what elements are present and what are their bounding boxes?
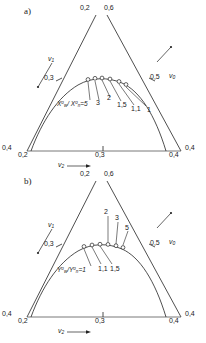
panel-a-marker-label-1: 1 — [147, 106, 151, 113]
panel-b-v1-arrow-head — [37, 252, 39, 254]
panel-b-marker-label-15: 1,5 — [110, 265, 120, 272]
panel-b-bottom-left-outer-label: 0,4 — [2, 310, 12, 317]
panel-b-axis-left-name: v1 — [48, 221, 54, 229]
panel-b-leader-1 — [84, 249, 91, 266]
panel-b-leader-15 — [100, 246, 112, 264]
panel-a-bottom-mid-label: 0,3 — [95, 151, 105, 158]
panel-a-markers — [86, 76, 128, 86]
panel-a-v1-arrow-head — [37, 86, 39, 88]
panel-a-v0-arrow-line — [157, 47, 171, 62]
panel-a-ticks — [56, 78, 155, 151]
panel-b-apex-right-label: 0,6 — [104, 170, 114, 177]
panel-b-left-tick-label: 0,3 — [44, 240, 54, 247]
panel-a-marker-2 — [100, 76, 104, 80]
panel-b-v2-arrow-head — [86, 330, 91, 334]
panel-b-leader-5 — [123, 231, 128, 245]
panel-a-v0-arrow-head — [170, 46, 172, 48]
panel-b-tag: b) — [24, 176, 32, 186]
panel-b-axis-bottom-name: v2 — [58, 327, 64, 335]
panel-a-marker-label-11: 1,1 — [131, 105, 141, 112]
panel-b-leaders — [84, 216, 128, 266]
panel-a-marker-3 — [93, 76, 97, 80]
panel-a-marker-15 — [108, 77, 112, 81]
panel-b-v0-arrow-line — [157, 213, 171, 228]
panel-b-bottom-mid-label: 0,3 — [95, 317, 105, 324]
panel-a-triangle — [27, 15, 181, 151]
panel-a-ratio-label: Xow/ Xon=5 — [57, 100, 88, 108]
panel-a-curve — [31, 79, 166, 151]
panel-a-marker-label-3: 3 — [96, 99, 100, 106]
panel-b-marker-label-5: 5 — [125, 224, 129, 231]
panel-a-bottom-left-outer-label: 0,4 — [2, 144, 12, 151]
panel-b-apex-left-label: 0,2 — [80, 170, 90, 177]
panel-a-marker-5 — [86, 78, 90, 82]
panel-a-left-tick-label: 0,3 — [44, 74, 54, 81]
panel-a-marker-label-2: 2 — [107, 94, 111, 101]
panel-b-triangle — [27, 181, 181, 317]
panel-b-marker-1 — [82, 245, 86, 249]
panel-a-axis-left-name: v1 — [48, 55, 54, 63]
panel-a-left-tick — [56, 78, 62, 81]
panel-b-marker-2 — [106, 243, 110, 247]
panel-a-axis-bottom-name: v2 — [58, 161, 64, 169]
panel-b-marker-3 — [114, 244, 118, 248]
panel-a-marker-1 — [124, 83, 128, 87]
panel-b-ticks — [56, 244, 155, 317]
panel-b-axis-right-name: v0 — [169, 238, 175, 246]
panel-a-leader-5 — [88, 82, 90, 100]
panel-a-leader-1 — [126, 87, 146, 106]
panel-a-bottom-left-inner-label: 0,2 — [18, 151, 28, 158]
panel-a-apex-right-label: 0,6 — [104, 4, 114, 11]
panel-b-left-edge — [27, 181, 96, 317]
panel-b-marker-11 — [90, 243, 94, 247]
panel-a-left-edge — [27, 15, 96, 151]
panel-b-marker-label-3: 3 — [115, 214, 119, 221]
panel-b-right-edge — [107, 181, 181, 317]
panel-b-bottom-right-outer-label: 0,4 — [185, 310, 195, 317]
panel-b-bottom-left-inner-label: 0,2 — [18, 317, 28, 324]
panel-a-marker-11 — [117, 80, 121, 84]
panel-a-marker-label-15: 1,5 — [117, 101, 127, 108]
panel-b-ratio-label: Yow/Yon=1 — [57, 266, 86, 274]
panel-a-bottom-right-outer-label: 0,4 — [185, 144, 195, 151]
panel-b-curve — [31, 245, 166, 317]
panel-b-right-tick-label: 0,5 — [150, 239, 160, 246]
panel-b-leader-3 — [116, 222, 118, 244]
panel-b-marker-5 — [121, 246, 125, 250]
panel-b-marker-label-2: 2 — [104, 208, 108, 215]
panel-a-right-tick-label: 0,5 — [150, 73, 160, 80]
panel-b-leader-11 — [92, 247, 101, 264]
panel-b-marker-15 — [98, 242, 102, 246]
panel-a-bottom-right-inner-label: 0,4 — [169, 151, 179, 158]
panel-a-v2-arrow-head — [86, 164, 91, 168]
panel-a-leader-3 — [95, 81, 99, 100]
panel-a-tag: a) — [24, 6, 31, 16]
figure-line-art — [0, 0, 206, 343]
panel-b-left-tick — [56, 244, 62, 247]
panel-b-markers — [82, 242, 125, 249]
panel-a-axis-right-name: v0 — [169, 72, 175, 80]
panel-b-marker-label-11: 1,1 — [98, 265, 108, 272]
panel-b-v0-arrow-head — [170, 212, 172, 214]
panel-b-bottom-right-inner-label: 0,4 — [169, 317, 179, 324]
panel-a-apex-left-label: 0,2 — [80, 4, 90, 11]
figure-container: a) 0,2 0,6 0,3 0,5 0,4 0,2 0,3 0,4 0,4 v… — [0, 0, 206, 343]
